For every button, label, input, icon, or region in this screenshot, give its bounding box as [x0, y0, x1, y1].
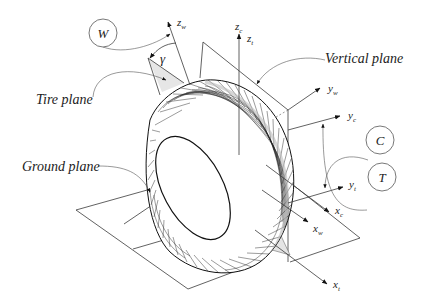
frame-c: C — [366, 126, 394, 154]
axis-label-y-w: yw — [327, 82, 338, 97]
axis-label-z-w: zw — [176, 16, 186, 31]
axis-label-x-t: xt — [332, 278, 341, 293]
frame-t: T — [368, 163, 396, 191]
axis-label-y-c: yc — [347, 109, 357, 124]
axis-label-x-w: xw — [312, 222, 323, 237]
axis-label-z-t: zt — [246, 32, 254, 47]
axis-label-x-c: xc — [334, 204, 344, 219]
ground-plane-label: Ground plane — [22, 159, 100, 174]
axis-label-z-c: zc — [234, 20, 243, 35]
frame-t-label: T — [378, 170, 386, 185]
axis-label-y-t: yt — [348, 178, 357, 193]
frame-w-label: W — [98, 26, 110, 41]
frame-c-label: C — [376, 133, 385, 148]
vertical-plane-label: Vertical plane — [325, 51, 403, 66]
frame-w: W — [89, 19, 117, 47]
tire-coordinate-diagram: γ W C T Tire plane Vertical plane Ground… — [0, 0, 421, 307]
tire-plane-label: Tire plane — [36, 92, 93, 107]
tire — [140, 80, 294, 273]
camber-angle-label: γ — [160, 51, 166, 66]
